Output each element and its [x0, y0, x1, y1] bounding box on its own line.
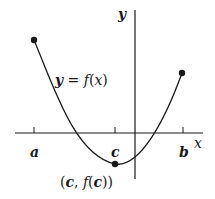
- minimum-point-label: (c, f(c)): [60, 174, 113, 190]
- tick-label-b: b: [179, 144, 189, 160]
- tick-label-a: a: [30, 144, 39, 160]
- minimum-point-dot: [112, 161, 118, 167]
- diagram-canvas: y x a c b y = f(x) (c, f(c)): [0, 0, 215, 199]
- x-axis-label: x: [194, 135, 202, 151]
- tick-label-c: c: [111, 144, 120, 160]
- left-endpoint-dot: [31, 37, 37, 43]
- y-axis-label: y: [117, 6, 127, 22]
- right-endpoint-dot: [179, 70, 185, 76]
- function-curve: [34, 40, 182, 164]
- curve-label: y = f(x): [54, 72, 108, 88]
